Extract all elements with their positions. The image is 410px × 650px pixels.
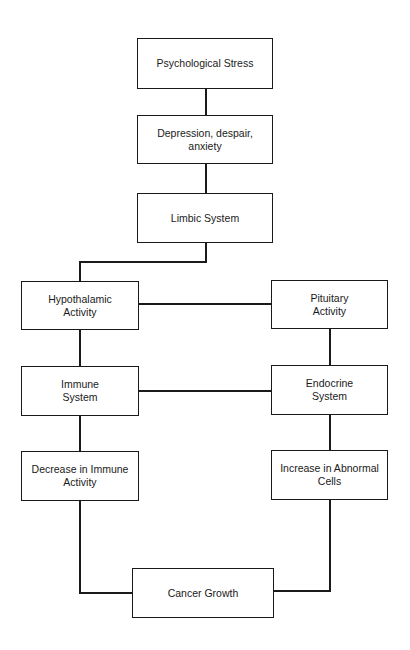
edge-decrease-cancer-horizontal (79, 592, 132, 594)
node-pituitary-activity: Pituitary Activity (271, 280, 388, 329)
node-label: Endocrine System (294, 377, 366, 403)
node-label: Depression, despair, anxiety (144, 127, 266, 153)
node-label: Immune System (49, 378, 111, 404)
node-label: Hypothalamic Activity (38, 293, 122, 319)
node-immune-system: Immune System (21, 366, 139, 416)
edge-pituitary-endocrine (329, 329, 331, 365)
edge-hypothalamic-pituitary (139, 303, 271, 305)
node-cancer-growth: Cancer Growth (132, 568, 274, 618)
edge-increase-cancer-horizontal (274, 590, 331, 592)
node-limbic-system: Limbic System (137, 193, 273, 243)
edge-hypothalamic-immune (79, 330, 81, 366)
node-depression: Depression, despair, anxiety (137, 115, 273, 164)
node-label: Limbic System (165, 212, 245, 225)
node-label: Cancer Growth (162, 587, 245, 600)
edge-depression-limbic (205, 164, 207, 193)
edge-immune-endocrine (139, 390, 271, 392)
node-label: Increase in Abnormal Cells (274, 462, 386, 488)
node-label: Decrease in Immune Activity (24, 463, 136, 489)
edge-stress-depression (205, 89, 207, 115)
node-endocrine-system: Endocrine System (271, 365, 388, 415)
node-label: Pituitary Activity (294, 292, 366, 318)
edge-endocrine-increase (329, 415, 331, 450)
node-label: Psychological Stress (151, 57, 260, 70)
node-psychological-stress: Psychological Stress (137, 38, 273, 89)
edge-immune-decrease (79, 416, 81, 451)
edge-decrease-cancer-vertical (79, 500, 81, 593)
node-increase-abnormal-cells: Increase in Abnormal Cells (271, 450, 388, 500)
edge-increase-cancer-vertical (329, 500, 331, 592)
node-hypothalamic-activity: Hypothalamic Activity (21, 281, 139, 330)
edge-limbic-hypothalamic-horizontal (79, 261, 207, 263)
edge-limbic-hypothalamic-vertical (79, 261, 81, 281)
edge-limbic-down (205, 243, 207, 263)
node-decrease-immune-activity: Decrease in Immune Activity (21, 451, 139, 501)
